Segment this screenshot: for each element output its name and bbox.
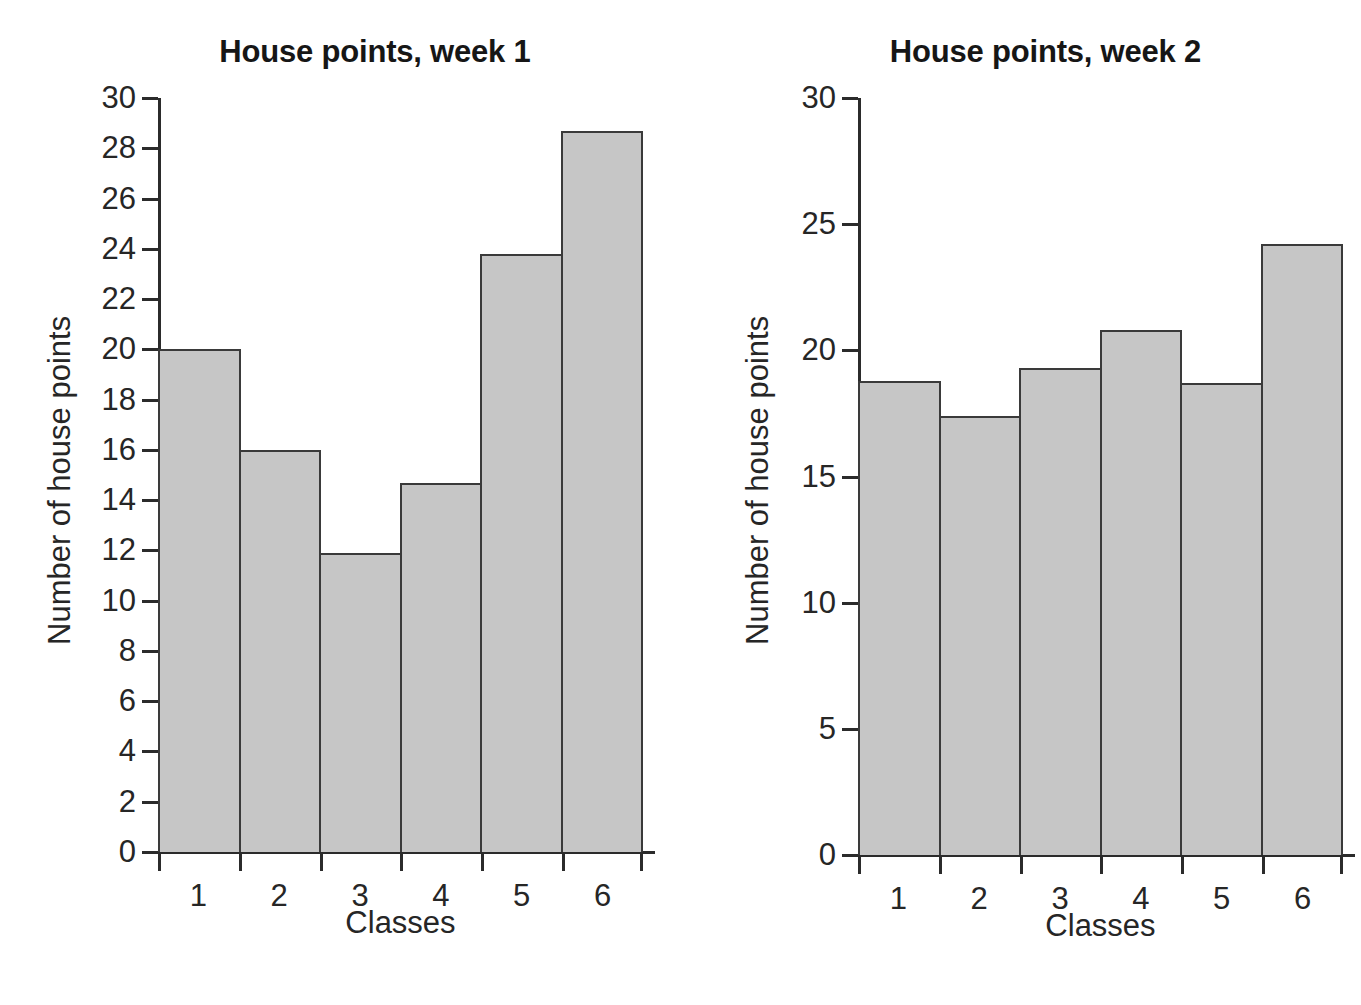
x-axis-extension-week-1 — [643, 851, 655, 854]
y-tick-label-week-2: 0 — [819, 839, 836, 870]
y-tick-mark-week-1 — [142, 549, 158, 552]
y-tick-mark-week-2 — [842, 854, 858, 857]
x-tick-mark-week-1 — [158, 854, 161, 871]
bar-week-2-class-2[interactable] — [939, 416, 1022, 855]
y-tick-mark-week-1 — [142, 700, 158, 703]
figure-two-bar-charts: House points, week 1 Number of house poi… — [0, 0, 1361, 1005]
y-tick-label-week-1: 0 — [119, 836, 136, 867]
y-tick-label-week-2: 30 — [802, 82, 836, 113]
y-tick-label-week-1: 6 — [119, 685, 136, 716]
y-tick-label-week-1: 4 — [119, 735, 136, 766]
plot-area-week-2: 051015202530 123456 — [858, 98, 1343, 855]
x-tick-mark-week-2 — [858, 857, 861, 874]
bar-week-1-class-2[interactable] — [239, 450, 322, 852]
x-tick-mark-week-1 — [239, 854, 242, 871]
y-tick-label-week-1: 16 — [102, 434, 136, 465]
y-tick-label-week-2: 25 — [802, 208, 836, 239]
bar-week-2-class-3[interactable] — [1019, 368, 1102, 855]
plot-area-week-1: 024681012141618202224262830 123456 — [158, 98, 643, 852]
x-tick-mark-week-1 — [481, 854, 484, 871]
y-tick-label-week-1: 2 — [119, 786, 136, 817]
y-tick-label-week-1: 24 — [102, 233, 136, 264]
y-tick-mark-week-1 — [142, 399, 158, 402]
x-tick-mark-week-1 — [562, 854, 565, 871]
y-tick-label-week-1: 10 — [102, 585, 136, 616]
y-tick-mark-week-1 — [142, 198, 158, 201]
y-tick-label-week-2: 15 — [802, 461, 836, 492]
bar-week-2-class-4[interactable] — [1100, 330, 1183, 855]
y-tick-label-week-1: 12 — [102, 534, 136, 565]
x-tick-mark-end-week-2 — [1340, 857, 1343, 874]
y-tick-mark-week-1 — [142, 449, 158, 452]
y-tick-mark-week-2 — [842, 97, 858, 100]
y-tick-mark-week-2 — [842, 728, 858, 731]
y-tick-mark-week-1 — [142, 348, 158, 351]
y-tick-label-week-1: 18 — [102, 384, 136, 415]
bar-week-1-class-4[interactable] — [400, 483, 483, 852]
bar-week-2-class-5[interactable] — [1180, 383, 1263, 855]
bar-week-1-class-6[interactable] — [561, 131, 644, 852]
chart-title-week-2: House points, week 2 — [690, 34, 1361, 70]
y-tick-label-week-1: 8 — [119, 635, 136, 666]
x-tick-mark-week-1 — [320, 854, 323, 871]
x-axis-extension-week-2 — [1343, 854, 1355, 857]
y-tick-mark-week-1 — [142, 851, 158, 854]
x-tick-mark-end-week-1 — [640, 854, 643, 871]
y-tick-mark-week-2 — [842, 602, 858, 605]
y-tick-label-week-2: 10 — [802, 587, 836, 618]
y-tick-label-week-1: 14 — [102, 484, 136, 515]
y-tick-label-week-1: 20 — [102, 333, 136, 364]
y-tick-mark-week-2 — [842, 476, 858, 479]
y-tick-mark-week-1 — [142, 650, 158, 653]
chart-panel-week-1: House points, week 1 Number of house poi… — [0, 0, 690, 1005]
y-axis-label-week-1: Number of house points — [42, 316, 78, 645]
chart-title-week-1: House points, week 1 — [0, 34, 720, 70]
y-tick-mark-week-2 — [842, 223, 858, 226]
y-tick-mark-week-1 — [142, 750, 158, 753]
y-axis-label-week-2: Number of house points — [740, 316, 776, 645]
x-tick-mark-week-2 — [939, 857, 942, 874]
y-tick-label-week-1: 30 — [102, 82, 136, 113]
bar-week-1-class-5[interactable] — [480, 254, 563, 852]
y-tick-mark-week-1 — [142, 97, 158, 100]
y-tick-mark-week-1 — [142, 600, 158, 603]
y-tick-label-week-2: 5 — [819, 713, 836, 744]
bar-week-1-class-1[interactable] — [158, 349, 241, 852]
y-tick-label-week-1: 22 — [102, 283, 136, 314]
y-tick-mark-week-1 — [142, 499, 158, 502]
y-tick-mark-week-1 — [142, 801, 158, 804]
x-tick-mark-week-2 — [1181, 857, 1184, 874]
y-tick-mark-week-1 — [142, 147, 158, 150]
bar-week-1-class-3[interactable] — [319, 553, 402, 852]
x-tick-mark-week-1 — [400, 854, 403, 871]
x-tick-mark-week-2 — [1262, 857, 1265, 874]
y-tick-label-week-2: 20 — [802, 334, 836, 365]
y-tick-mark-week-2 — [842, 349, 858, 352]
bar-week-2-class-6[interactable] — [1261, 244, 1344, 855]
x-axis-label-week-2: Classes — [858, 908, 1343, 944]
y-tick-label-week-1: 28 — [102, 132, 136, 163]
x-tick-mark-week-2 — [1020, 857, 1023, 874]
bar-group-week-2 — [858, 98, 1343, 855]
x-tick-mark-week-2 — [1100, 857, 1103, 874]
bar-week-2-class-1[interactable] — [858, 381, 941, 855]
x-axis-label-week-1: Classes — [158, 905, 643, 941]
y-tick-label-week-1: 26 — [102, 183, 136, 214]
y-tick-mark-week-1 — [142, 298, 158, 301]
bar-group-week-1 — [158, 98, 643, 852]
y-tick-mark-week-1 — [142, 248, 158, 251]
